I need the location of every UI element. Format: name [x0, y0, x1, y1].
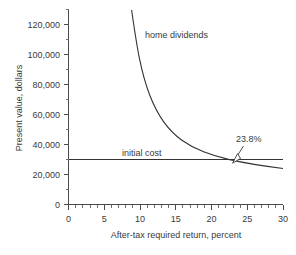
- x-axis-title: After-tax required return, percent: [111, 230, 242, 240]
- y-axis-tick-labels: 0 20,000 40,000 60,000 80,000 100,000 12…: [27, 20, 60, 210]
- series-initial-cost-label: initial cost: [122, 148, 162, 158]
- x-tick-label-5: 5: [102, 214, 107, 224]
- series-home-dividends-label: home dividends: [145, 30, 209, 40]
- y-axis-ticks: [64, 10, 69, 205]
- x-tick-label-0: 0: [66, 214, 71, 224]
- y-tick-label-40000: 40,000: [32, 140, 60, 150]
- x-tick-label-15: 15: [171, 214, 181, 224]
- chart-canvas: 0 20,000 40,000 60,000 80,000 100,000 12…: [0, 0, 296, 255]
- y-tick-label-0: 0: [55, 200, 60, 210]
- x-axis-ticks: [69, 205, 284, 211]
- x-tick-label-20: 20: [206, 214, 216, 224]
- y-tick-label-80000: 80,000: [32, 80, 60, 90]
- x-tick-label-10: 10: [135, 214, 145, 224]
- y-tick-label-100000: 100,000: [27, 50, 60, 60]
- y-tick-label-60000: 60,000: [32, 110, 60, 120]
- x-tick-label-25: 25: [242, 214, 252, 224]
- y-axis-title: Present value, dollars: [14, 64, 24, 151]
- chart-container: 0 20,000 40,000 60,000 80,000 100,000 12…: [0, 0, 296, 255]
- x-axis-tick-labels: 0 5 10 15 20 25 30: [66, 214, 288, 224]
- annotation-breakeven: 23.8%: [233, 134, 262, 163]
- y-tick-label-120000: 120,000: [27, 20, 60, 30]
- y-tick-label-20000: 20,000: [32, 170, 60, 180]
- annotation-breakeven-label: 23.8%: [236, 134, 262, 144]
- x-tick-label-30: 30: [278, 214, 288, 224]
